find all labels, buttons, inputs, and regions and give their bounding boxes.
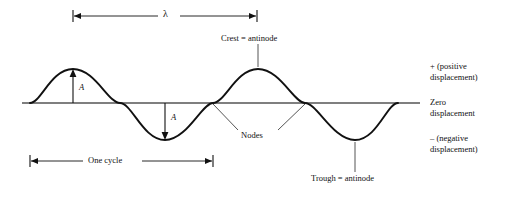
zero-displacement-label-line2: displacement (430, 108, 475, 119)
nodes-label: Nodes (241, 130, 263, 141)
negative-displacement-label-line1: – (negative (430, 133, 468, 144)
positive-displacement-label-line2: displacement) (430, 72, 478, 83)
one-cycle-label: One cycle (88, 155, 122, 166)
amplitude-arrow-trough (162, 103, 169, 140)
crest-label: Crest = antinode (221, 33, 277, 44)
trough-label: Trough = antinode (311, 173, 374, 184)
wave-diagram-figure: λ A A Crest = antinode Trough = antinode… (0, 0, 515, 201)
amplitude-trough-label: A (171, 112, 176, 123)
zero-displacement-label-line1: Zero (430, 97, 446, 108)
negative-displacement-label-line2: displacement) (430, 144, 478, 155)
positive-displacement-label-line1: + (positive (430, 61, 467, 72)
amplitude-arrow-crest (70, 69, 77, 103)
wavelength-label: λ (163, 9, 168, 20)
amplitude-crest-label: A (79, 82, 84, 93)
nodes-leader-lines (213, 104, 305, 130)
